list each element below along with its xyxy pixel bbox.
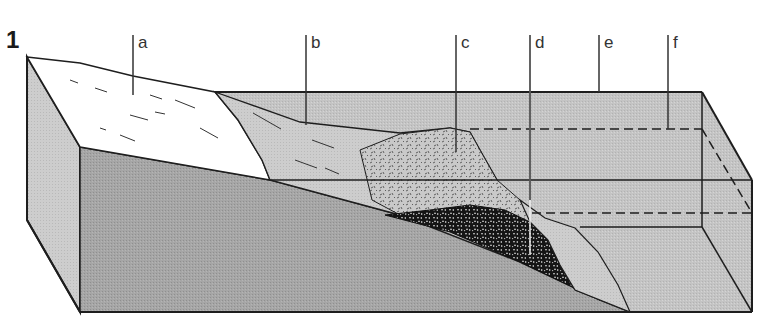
label-e: e	[599, 33, 613, 92]
svg-text:a: a	[138, 33, 148, 52]
svg-text:c: c	[461, 33, 470, 52]
svg-text:d: d	[535, 33, 544, 52]
svg-text:e: e	[604, 33, 613, 52]
svg-text:f: f	[673, 33, 678, 52]
figure-number: 1	[6, 26, 19, 53]
diagram-figure: 1	[0, 0, 774, 329]
svg-text:b: b	[311, 33, 320, 52]
